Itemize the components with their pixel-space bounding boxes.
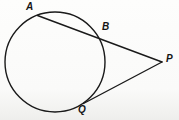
- point-label-b: B: [102, 22, 109, 32]
- tangent-line-QP: [84, 62, 163, 104]
- secant-line-APB: [38, 16, 163, 63]
- geometry-figure: A B P Q: [0, 0, 179, 120]
- point-label-q: Q: [78, 105, 86, 115]
- geometry-canvas: [0, 0, 179, 120]
- point-label-a: A: [26, 2, 33, 12]
- main-circle: [5, 12, 105, 112]
- point-label-p: P: [166, 54, 173, 64]
